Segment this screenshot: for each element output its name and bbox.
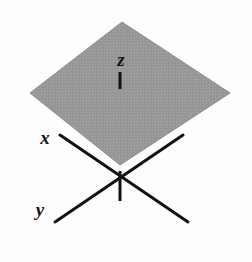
- y-axis-label: y: [34, 199, 45, 220]
- coordinate-axes-figure: z x y: [0, 0, 252, 262]
- x-axis-label: x: [39, 127, 50, 148]
- z-axis-label: z: [116, 49, 125, 70]
- figure-container: z x y: [0, 0, 252, 262]
